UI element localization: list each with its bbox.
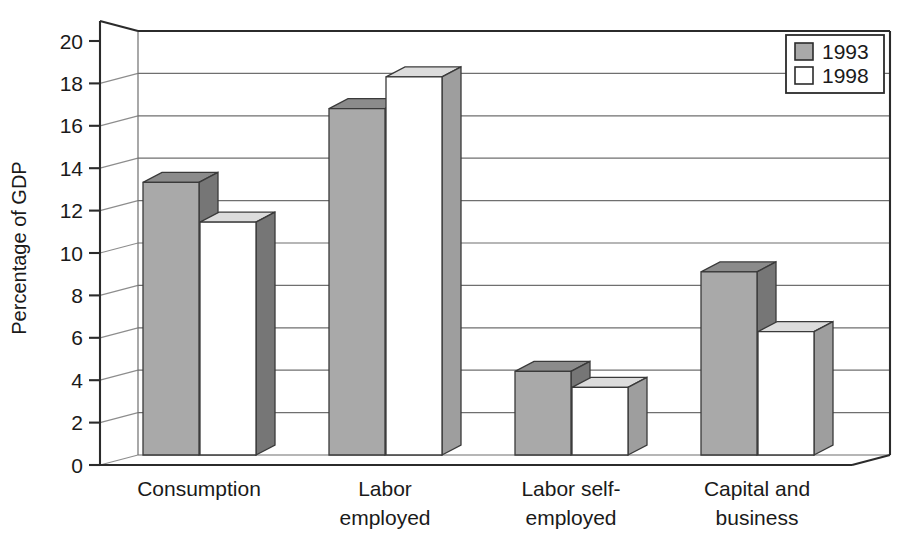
y-tick-label-18: 18 bbox=[60, 72, 83, 95]
y-tick-label-4: 4 bbox=[71, 369, 83, 392]
bar-front-face bbox=[758, 332, 814, 455]
category-label-consumption: Consumption bbox=[137, 477, 261, 500]
legend-label-1993: 1993 bbox=[822, 40, 869, 63]
bar-group-consumption bbox=[143, 172, 275, 455]
legend-entry-1993[interactable]: 1993 bbox=[795, 40, 869, 63]
bar-front-face bbox=[701, 272, 757, 455]
bar-chart-3d: 0 2 4 6 8 10 12 14 16 18 20 Percentage o… bbox=[0, 0, 906, 549]
bar-labor-self-employed-1998[interactable] bbox=[572, 377, 647, 455]
y-tick-label-0: 0 bbox=[71, 454, 83, 477]
y-tick-label-16: 16 bbox=[60, 114, 83, 137]
category-label-labor-self-employed-line2: employed bbox=[525, 506, 616, 529]
bar-front-face bbox=[515, 371, 571, 455]
chart-container: 0 2 4 6 8 10 12 14 16 18 20 Percentage o… bbox=[0, 0, 906, 549]
white-swatch-icon bbox=[795, 67, 813, 84]
bar-front-face bbox=[200, 222, 256, 455]
category-label-capital-and-business-line1: Capital and bbox=[704, 477, 810, 500]
legend-entry-1998[interactable]: 1998 bbox=[795, 64, 869, 87]
category-label-labor-employed-line1: Labor bbox=[358, 477, 412, 500]
legend-label-1998: 1998 bbox=[822, 64, 869, 87]
bar-front-face bbox=[572, 387, 628, 455]
y-axis-title: Percentage of GDP bbox=[8, 161, 30, 334]
y-tick-label-8: 8 bbox=[71, 284, 83, 307]
bar-side-face bbox=[814, 322, 833, 455]
y-tick-label-10: 10 bbox=[60, 242, 83, 265]
y-tick-label-6: 6 bbox=[71, 326, 83, 349]
bar-front-face bbox=[386, 77, 442, 455]
floor bbox=[100, 455, 890, 465]
gray-swatch-icon bbox=[795, 43, 813, 60]
category-label-labor-employed-line2: employed bbox=[339, 506, 430, 529]
category-label-capital-and-business-line2: business bbox=[716, 506, 799, 529]
bar-front-face bbox=[329, 109, 385, 455]
left-wall bbox=[100, 21, 138, 465]
bar-group-labor-employed bbox=[329, 67, 461, 455]
bar-labor-employed-1998[interactable] bbox=[386, 67, 461, 455]
legend[interactable]: 1993 1998 bbox=[786, 35, 884, 93]
y-tick-label-2: 2 bbox=[71, 411, 83, 434]
bar-consumption-1998[interactable] bbox=[200, 212, 275, 455]
y-tick-label-12: 12 bbox=[60, 199, 83, 222]
bar-capital-and-business-1998[interactable] bbox=[758, 322, 833, 455]
bar-side-face bbox=[442, 67, 461, 455]
bar-front-face bbox=[143, 182, 199, 455]
y-tick-label-20: 20 bbox=[60, 30, 83, 53]
y-tick-label-14: 14 bbox=[60, 157, 84, 180]
bar-side-face bbox=[628, 377, 647, 455]
category-label-labor-self-employed-line1: Labor self- bbox=[521, 477, 620, 500]
bar-side-face bbox=[256, 212, 275, 455]
